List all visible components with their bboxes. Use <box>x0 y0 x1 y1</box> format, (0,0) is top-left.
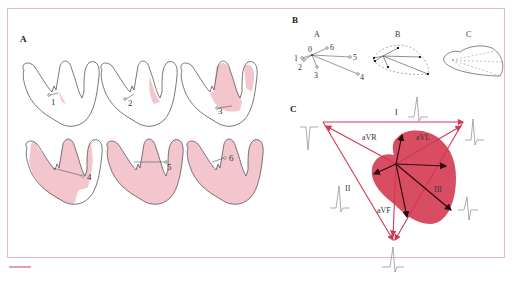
panel-b-subpanel-a: A 0 1 2 3 4 5 6 <box>294 30 364 82</box>
stage-number: 2 <box>128 98 133 108</box>
subpanel-label: B <box>395 30 400 39</box>
heart-stage-3: 3 <box>181 61 257 126</box>
heart-stage-4: 4 <box>26 139 102 204</box>
point-label: 1 <box>294 54 298 63</box>
figure-canvas: A 1 2 3 4 5 <box>0 0 516 282</box>
point-label: 5 <box>353 53 357 62</box>
subpanel-label: C <box>466 30 471 39</box>
point-label: 4 <box>360 73 364 82</box>
stage-number: 6 <box>229 153 234 163</box>
lead-i-label: I <box>395 108 398 117</box>
panel-b-label: B <box>292 15 298 25</box>
ecg-lead-avf <box>382 247 404 272</box>
lead-avl-label: aVL <box>416 133 430 142</box>
panel-b-subpanel-b: B <box>373 30 429 75</box>
lead-avf-label: aVF <box>377 206 391 215</box>
lead-iii-label: III <box>434 185 442 194</box>
ecg-lead-avl <box>465 119 484 145</box>
point-label: 3 <box>314 71 318 80</box>
subpanel-label: A <box>314 30 320 39</box>
stage-number: 1 <box>51 97 56 107</box>
panel-c-label: C <box>290 104 297 114</box>
panel-b-subpanel-c: C <box>444 30 503 76</box>
heart-stage-2: 2 <box>101 61 177 126</box>
stage-number: 5 <box>167 162 172 172</box>
ecg-lead-iii <box>458 197 478 220</box>
panel-a-label: A <box>20 34 27 44</box>
ecg-lead-avr <box>300 127 318 150</box>
lead-ii-label: II <box>345 184 351 193</box>
point-label: 2 <box>298 63 302 72</box>
ecg-lead-i <box>408 97 428 121</box>
heart-stage-1: 1 <box>23 61 99 126</box>
stage-number: 3 <box>218 106 223 116</box>
heart-stage-5: 5 <box>107 139 183 204</box>
lead-avr-label: aVR <box>362 133 377 142</box>
stage-number: 4 <box>87 172 92 182</box>
heart-stage-6: 6 <box>187 139 263 204</box>
point-label: 6 <box>330 43 334 52</box>
point-label: 0 <box>308 45 312 54</box>
